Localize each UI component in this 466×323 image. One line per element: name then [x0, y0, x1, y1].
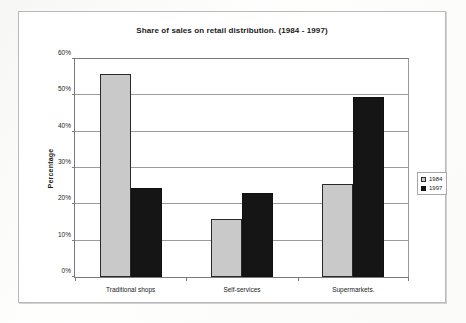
- y-tick-label: 60%: [58, 49, 71, 56]
- bar-1997[interactable]: [353, 97, 384, 277]
- bar-group: Supermarkets.: [298, 59, 409, 277]
- bar-groups: Traditional shopsSelf-servicesSupermarke…: [75, 59, 409, 277]
- category-tick: [408, 277, 409, 281]
- category-label: Self-services: [186, 286, 297, 293]
- legend: 19841997: [417, 172, 447, 195]
- chart-frame: Share of sales on retail distribution. (…: [18, 11, 446, 303]
- legend-label: 1997: [429, 185, 442, 191]
- bar-group-bars: [75, 59, 186, 277]
- y-tick-label: 20%: [58, 194, 71, 201]
- plot-area: 0%10%20%30%40%50%60% Traditional shopsSe…: [74, 59, 409, 278]
- chart-title: Share of sales on retail distribution. (…: [19, 26, 445, 35]
- bar-group-bars: [298, 59, 409, 277]
- legend-item-1984[interactable]: 1984: [421, 176, 442, 182]
- legend-label: 1984: [429, 176, 442, 182]
- bar-1997[interactable]: [131, 188, 162, 277]
- bar-group-bars: [186, 59, 297, 277]
- scanned-chart-page: Share of sales on retail distribution. (…: [0, 0, 466, 323]
- y-tick-label: 0%: [62, 267, 71, 274]
- y-tick-label: 10%: [58, 230, 71, 237]
- y-tick-label: 40%: [58, 121, 71, 128]
- bar-1997[interactable]: [242, 193, 273, 277]
- legend-swatch-icon: [421, 186, 426, 191]
- bar-1984[interactable]: [100, 74, 131, 277]
- legend-swatch-icon: [421, 177, 426, 182]
- y-axis-title-text: Percentage: [48, 149, 55, 189]
- y-tick-label: 30%: [58, 158, 71, 165]
- bar-1984[interactable]: [211, 219, 242, 277]
- category-tick: [298, 277, 299, 281]
- category-label: Supermarkets.: [298, 286, 409, 293]
- bar-1984[interactable]: [322, 184, 353, 277]
- bar-group: Traditional shops: [75, 59, 186, 277]
- y-tick-label: 50%: [58, 85, 71, 92]
- legend-item-1997[interactable]: 1997: [421, 185, 442, 191]
- y-axis-title: Percentage: [45, 59, 57, 278]
- bar-group: Self-services: [186, 59, 297, 277]
- category-tick: [75, 277, 76, 281]
- category-tick: [186, 277, 187, 281]
- category-label: Traditional shops: [75, 286, 186, 293]
